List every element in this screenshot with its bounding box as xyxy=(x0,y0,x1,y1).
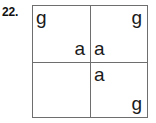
punnett-cell-top-left[interactable]: g a xyxy=(33,6,90,62)
allele-letter: g xyxy=(131,94,142,113)
allele-letter: g xyxy=(131,8,142,27)
worksheet-item: 22. g a g a a g xyxy=(0,0,156,123)
punnett-cell-bottom-right[interactable]: a g xyxy=(90,62,147,118)
allele-letter: a xyxy=(74,39,85,58)
punnett-cell-bottom-left[interactable] xyxy=(33,62,90,118)
allele-letter: g xyxy=(36,8,47,27)
allele-letter: a xyxy=(94,39,105,58)
allele-letter: a xyxy=(94,65,105,84)
punnett-cell-top-right[interactable]: g a xyxy=(90,6,147,62)
question-number: 22. xyxy=(2,6,18,18)
punnett-square-grid: g a g a a g xyxy=(32,5,148,118)
